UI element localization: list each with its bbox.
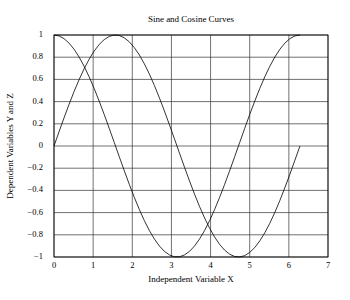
y-tick-label: −1 (9, 251, 43, 261)
x-tick-label: 6 (279, 260, 299, 270)
y-tick-label: −0.6 (9, 207, 43, 217)
grid-lines (54, 35, 328, 257)
y-tick-label: 0.8 (9, 51, 43, 61)
x-tick-label: 4 (201, 260, 221, 270)
y-tick-label: 0.2 (9, 118, 43, 128)
y-tick-label: −0.2 (9, 162, 43, 172)
y-tick-label: 0.6 (9, 73, 43, 83)
y-tick-label: 0.4 (9, 96, 43, 106)
x-tick-label: 3 (161, 260, 181, 270)
x-tick-label: 5 (240, 260, 260, 270)
y-tick-label: 1 (9, 29, 43, 39)
chart-plot (0, 0, 350, 300)
x-tick-label: 1 (83, 260, 103, 270)
chart-title: Sine and Cosine Curves (0, 14, 350, 24)
y-tick-label: −0.4 (9, 184, 43, 194)
x-tick-label: 2 (122, 260, 142, 270)
y-tick-label: 0 (9, 140, 43, 150)
x-axis-label: Independent Variable X (54, 274, 328, 284)
x-tick-label: 7 (318, 260, 338, 270)
x-tick-label: 0 (44, 260, 64, 270)
y-tick-label: −0.8 (9, 229, 43, 239)
